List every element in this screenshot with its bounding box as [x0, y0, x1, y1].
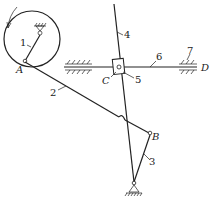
label-2: 2	[50, 87, 56, 98]
label-5: 5	[135, 74, 141, 85]
label-A: A	[15, 64, 23, 75]
mechanism-diagram: 1 A 2 B 3 4 C 5 6 7 D	[0, 0, 217, 209]
label-D: D	[200, 62, 209, 73]
coupler-link-2	[25, 62, 152, 135]
ground-pivot-bottom	[125, 181, 142, 196]
label-C: C	[102, 75, 110, 86]
label-6: 6	[156, 51, 162, 62]
crank-disk	[4, 7, 60, 67]
label-7: 7	[187, 45, 193, 56]
label-4: 4	[124, 29, 130, 40]
label-3: 3	[149, 156, 155, 167]
right-guide-7	[179, 54, 197, 74]
label-B: B	[151, 131, 159, 142]
label-1: 1	[20, 37, 26, 48]
rocker-link-3	[134, 135, 150, 182]
